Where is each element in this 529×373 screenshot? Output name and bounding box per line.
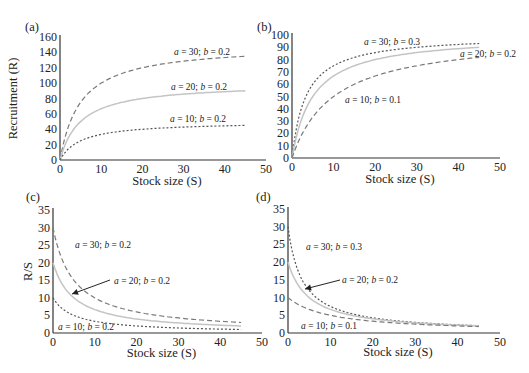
series-line bbox=[292, 57, 479, 158]
y-tick-label: 20 bbox=[273, 255, 285, 269]
x-tick-label: 40 bbox=[214, 335, 226, 349]
y-tick-label: 160 bbox=[39, 30, 57, 44]
y-tick-label: 60 bbox=[277, 77, 289, 91]
series-annotation: a = 10; b = 0.2 bbox=[58, 322, 114, 332]
y-tick-label: 50 bbox=[277, 90, 289, 104]
y-tick-label: 20 bbox=[45, 138, 57, 152]
y-tick-label: 5 bbox=[44, 308, 50, 322]
panel-label: (b) bbox=[257, 20, 272, 34]
x-tick-label: 10 bbox=[328, 160, 340, 174]
series-line bbox=[53, 263, 241, 326]
x-axis-title: Stock size (S) bbox=[363, 345, 432, 359]
annotation-arrow bbox=[72, 280, 110, 294]
x-tick-label: 0 bbox=[57, 162, 63, 176]
figure: (a)01020304050020406080100120140160Stock… bbox=[0, 0, 529, 373]
y-tick-label: 100 bbox=[271, 28, 289, 42]
y-tick-label: 0 bbox=[279, 326, 285, 340]
x-axis-title: Stock size (S) bbox=[127, 346, 196, 360]
y-axis-title: Recruitment (R) bbox=[6, 58, 20, 140]
y-tick-label: 80 bbox=[277, 53, 289, 67]
arrowhead-icon bbox=[305, 285, 312, 291]
y-tick-label: 10 bbox=[273, 291, 285, 305]
series-annotation: a = 20; b = 0.2 bbox=[460, 49, 516, 59]
y-tick-label: 35 bbox=[273, 202, 285, 216]
y-tick-label: 0 bbox=[51, 153, 57, 167]
series-annotation: a = 20; b = 0.2 bbox=[114, 276, 170, 286]
series-annotation: a = 30; b = 0.3 bbox=[364, 37, 420, 47]
series-annotation: a = 30; b = 0.3 bbox=[306, 242, 362, 252]
series-annotation: a = 10; b = 0.2 bbox=[170, 114, 226, 124]
y-tick-label: 70 bbox=[277, 65, 289, 79]
x-tick-label: 40 bbox=[452, 335, 464, 349]
series-annotation: a = 30; b = 0.2 bbox=[75, 240, 131, 250]
x-tick-label: 50 bbox=[260, 162, 272, 176]
x-tick-label: 10 bbox=[324, 335, 336, 349]
panel-label: (a) bbox=[25, 20, 39, 34]
y-tick-label: 60 bbox=[45, 107, 57, 121]
x-axis-title: Stock size (S) bbox=[365, 172, 434, 186]
y-tick-label: 40 bbox=[277, 102, 289, 116]
y-tick-label: 20 bbox=[38, 256, 50, 270]
y-tick-label: 90 bbox=[277, 40, 289, 54]
x-tick-label: 50 bbox=[256, 335, 268, 349]
series-annotation: a = 30; b = 0.2 bbox=[174, 47, 230, 57]
y-tick-label: 30 bbox=[277, 114, 289, 128]
y-tick-label: 5 bbox=[279, 308, 285, 322]
panel-label: (c) bbox=[26, 190, 40, 204]
y-tick-label: 25 bbox=[38, 238, 50, 252]
y-tick-label: 15 bbox=[273, 273, 285, 287]
y-axis-title: R/S bbox=[21, 262, 35, 281]
x-tick-label: 10 bbox=[89, 335, 101, 349]
y-tick-label: 25 bbox=[273, 237, 285, 251]
y-tick-label: 40 bbox=[45, 122, 57, 136]
y-tick-label: 120 bbox=[39, 61, 57, 75]
y-tick-label: 0 bbox=[44, 326, 50, 340]
panel-d: (d)0102030405005101520253035Stock size (… bbox=[256, 190, 506, 359]
series-annotation: a = 20; b = 0.2 bbox=[342, 275, 398, 285]
panel-label: (d) bbox=[256, 190, 271, 204]
x-tick-label: 40 bbox=[219, 162, 231, 176]
series-line bbox=[60, 91, 245, 160]
series-annotation: a = 10; b = 0.1 bbox=[301, 321, 357, 331]
y-tick-label: 20 bbox=[277, 126, 289, 140]
x-tick-label: 50 bbox=[494, 335, 506, 349]
y-tick-label: 140 bbox=[39, 45, 57, 59]
y-tick-label: 30 bbox=[273, 220, 285, 234]
x-tick-label: 0 bbox=[289, 160, 295, 174]
y-tick-label: 30 bbox=[38, 221, 50, 235]
panel-b: (b)010203040500102030405060708090100Stoc… bbox=[257, 20, 516, 186]
series-annotation: a = 20; b = 0.2 bbox=[171, 82, 227, 92]
x-axis-title: Stock size (S) bbox=[132, 174, 201, 188]
y-tick-label: 35 bbox=[38, 203, 50, 217]
y-tick-label: 15 bbox=[38, 273, 50, 287]
x-tick-label: 40 bbox=[452, 160, 464, 174]
series-annotation: a = 10; b = 0.1 bbox=[345, 95, 401, 105]
y-tick-label: 10 bbox=[277, 139, 289, 153]
y-tick-label: 80 bbox=[45, 92, 57, 106]
y-tick-label: 10 bbox=[38, 291, 50, 305]
x-tick-label: 0 bbox=[50, 335, 56, 349]
series-line bbox=[60, 125, 245, 160]
series-line bbox=[60, 56, 245, 160]
x-tick-label: 10 bbox=[95, 162, 107, 176]
y-tick-label: 100 bbox=[39, 76, 57, 90]
panel-a: (a)01020304050020406080100120140160Stock… bbox=[6, 20, 272, 188]
panel-c: (c)0102030405005101520253035Stock size (… bbox=[21, 190, 268, 360]
x-tick-label: 50 bbox=[494, 160, 506, 174]
y-tick-label: 0 bbox=[283, 151, 289, 165]
series-line bbox=[288, 262, 479, 326]
x-tick-label: 0 bbox=[285, 335, 291, 349]
